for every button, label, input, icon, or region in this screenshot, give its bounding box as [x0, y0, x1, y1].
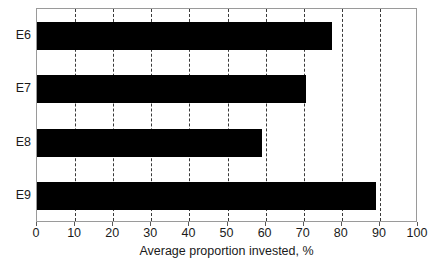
- y-axis-labels: E6 E7 E8 E9: [0, 8, 31, 222]
- bar-e6: [37, 22, 332, 50]
- x-axis-tick-label: 20: [105, 227, 119, 240]
- bar-chart: E6 E7 E8 E9 0102030405060708090100 Avera…: [0, 0, 443, 267]
- x-axis-tick-label: 10: [67, 227, 81, 240]
- gridline: [418, 9, 419, 221]
- bar-e8: [37, 129, 262, 157]
- bar-slot: [37, 75, 418, 103]
- y-axis-tick-label: E8: [1, 136, 31, 149]
- x-axis-title: Average proportion invested, %: [36, 245, 417, 258]
- x-axis-tick-labels: 0102030405060708090100: [36, 227, 417, 243]
- bar-slot: [37, 22, 418, 50]
- x-axis-tick-label: 60: [258, 227, 272, 240]
- y-axis-tick-label: E9: [1, 189, 31, 202]
- x-axis-tick-label: 50: [220, 227, 234, 240]
- x-axis-tick-label: 40: [181, 227, 195, 240]
- bar-e9: [37, 182, 376, 210]
- x-axis-tick-label: 90: [372, 227, 386, 240]
- x-axis-tick-label: 0: [33, 227, 40, 240]
- x-axis-tick-label: 80: [334, 227, 348, 240]
- bar-slot: [37, 129, 418, 157]
- x-axis-tick-label: 30: [143, 227, 157, 240]
- x-axis-tick-label: 70: [296, 227, 310, 240]
- y-axis-tick-label: E6: [1, 29, 31, 42]
- bar-e7: [37, 75, 306, 103]
- bars-layer: [37, 9, 416, 221]
- plot-area: [36, 8, 417, 222]
- bar-slot: [37, 182, 418, 210]
- x-axis-tick-label: 100: [407, 227, 428, 240]
- y-axis-tick-label: E7: [1, 82, 31, 95]
